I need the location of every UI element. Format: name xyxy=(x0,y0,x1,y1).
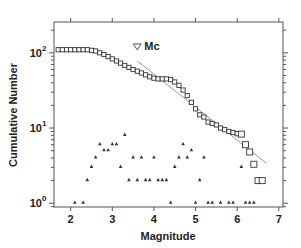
triangle-marker xyxy=(244,200,248,203)
square-marker xyxy=(89,48,93,52)
triangle-marker xyxy=(240,165,244,168)
triangle-marker xyxy=(131,155,135,158)
y-tick-label: 10 xyxy=(30,197,42,209)
triangle-marker xyxy=(119,165,123,168)
square-marker xyxy=(218,126,222,130)
x-axis-title: Magnitude xyxy=(141,230,196,242)
triangle-marker xyxy=(231,200,235,203)
square-marker xyxy=(160,77,164,81)
square-marker xyxy=(206,120,210,124)
triangle-marker xyxy=(86,178,90,181)
triangle-marker xyxy=(90,165,94,168)
square-marker xyxy=(73,48,77,52)
square-marker xyxy=(102,52,106,56)
triangle-marker xyxy=(198,178,202,181)
x-tick-label: 6 xyxy=(234,213,240,225)
y-axis-ticks: 100101102 xyxy=(30,30,288,209)
square-marker xyxy=(227,129,231,133)
triangle-marker xyxy=(181,142,185,145)
square-marker xyxy=(243,142,249,148)
triangle-marker xyxy=(165,178,169,181)
triangle-marker xyxy=(115,142,119,145)
triangle-marker xyxy=(190,148,194,151)
square-marker xyxy=(181,88,185,92)
square-marker xyxy=(214,123,218,127)
square-marker xyxy=(114,59,118,63)
square-marker xyxy=(77,48,81,52)
square-marker xyxy=(144,73,148,77)
square-marker xyxy=(98,51,102,55)
square-marker xyxy=(139,71,143,75)
triangle-marker xyxy=(106,148,110,151)
triangle-marker xyxy=(144,178,148,181)
square-marker xyxy=(202,115,206,119)
square-marker xyxy=(94,49,98,53)
square-marker xyxy=(127,65,131,69)
triangle-marker xyxy=(98,142,102,145)
triangle-marker xyxy=(127,178,131,181)
triangle-marker xyxy=(81,200,85,203)
triangle-series xyxy=(73,133,264,204)
square-marker xyxy=(69,48,73,52)
triangle-marker xyxy=(102,148,106,151)
x-tick-label: 5 xyxy=(193,213,199,225)
square-marker xyxy=(119,61,123,65)
triangle-marker xyxy=(140,155,144,158)
triangle-marker xyxy=(73,200,77,203)
triangle-marker xyxy=(148,178,152,181)
square-series xyxy=(56,48,265,184)
y-tick-label: 10 xyxy=(30,47,42,59)
square-marker xyxy=(173,80,177,84)
square-marker xyxy=(168,78,172,82)
x-tick-label: 7 xyxy=(276,213,282,225)
square-marker xyxy=(177,83,181,87)
square-marker xyxy=(131,67,135,71)
square-marker xyxy=(164,77,168,81)
square-marker xyxy=(238,131,244,137)
triangle-marker xyxy=(156,178,160,181)
mc-annotation: Mc xyxy=(133,40,159,52)
triangle-marker xyxy=(123,133,127,136)
triangle-marker xyxy=(194,200,198,203)
square-marker xyxy=(198,113,202,117)
square-marker xyxy=(223,128,227,132)
y-axis-title: Cumulative Number xyxy=(7,62,19,167)
square-marker xyxy=(106,55,110,59)
triangle-marker xyxy=(219,200,223,203)
triangle-marker xyxy=(252,200,256,203)
triangle-marker xyxy=(110,142,114,145)
square-marker xyxy=(64,48,68,52)
triangle-marker xyxy=(169,200,173,203)
square-marker xyxy=(123,63,127,67)
x-tick-label: 3 xyxy=(109,213,115,225)
square-marker xyxy=(81,48,85,52)
y-tick-label: 10 xyxy=(30,122,42,134)
triangle-marker xyxy=(202,155,206,158)
triangle-marker xyxy=(152,155,156,158)
frequency-magnitude-chart: 234567 100101102 Mc Magnitude Cumulative… xyxy=(0,0,301,248)
mc-marker-icon xyxy=(133,44,141,50)
square-marker xyxy=(259,178,265,184)
triangle-marker xyxy=(210,200,214,203)
square-marker xyxy=(210,121,214,125)
triangle-marker xyxy=(185,155,189,158)
square-marker xyxy=(185,93,189,97)
mc-label: Mc xyxy=(144,40,159,52)
square-marker xyxy=(110,57,114,61)
triangle-marker xyxy=(177,155,181,158)
triangle-marker xyxy=(160,178,164,181)
triangle-marker xyxy=(173,165,177,168)
square-marker xyxy=(156,77,160,81)
x-axis-ticks: 234567 xyxy=(68,18,282,225)
square-marker xyxy=(85,48,89,52)
square-marker xyxy=(152,76,156,80)
square-marker xyxy=(251,161,257,167)
triangle-marker xyxy=(248,200,252,203)
y-tick-exponent: 1 xyxy=(42,119,47,128)
square-marker xyxy=(193,107,197,111)
y-tick-exponent: 0 xyxy=(42,194,47,203)
square-marker xyxy=(247,149,253,155)
triangle-marker xyxy=(227,200,231,203)
x-tick-label: 4 xyxy=(151,213,158,225)
y-tick-exponent: 2 xyxy=(42,44,47,53)
